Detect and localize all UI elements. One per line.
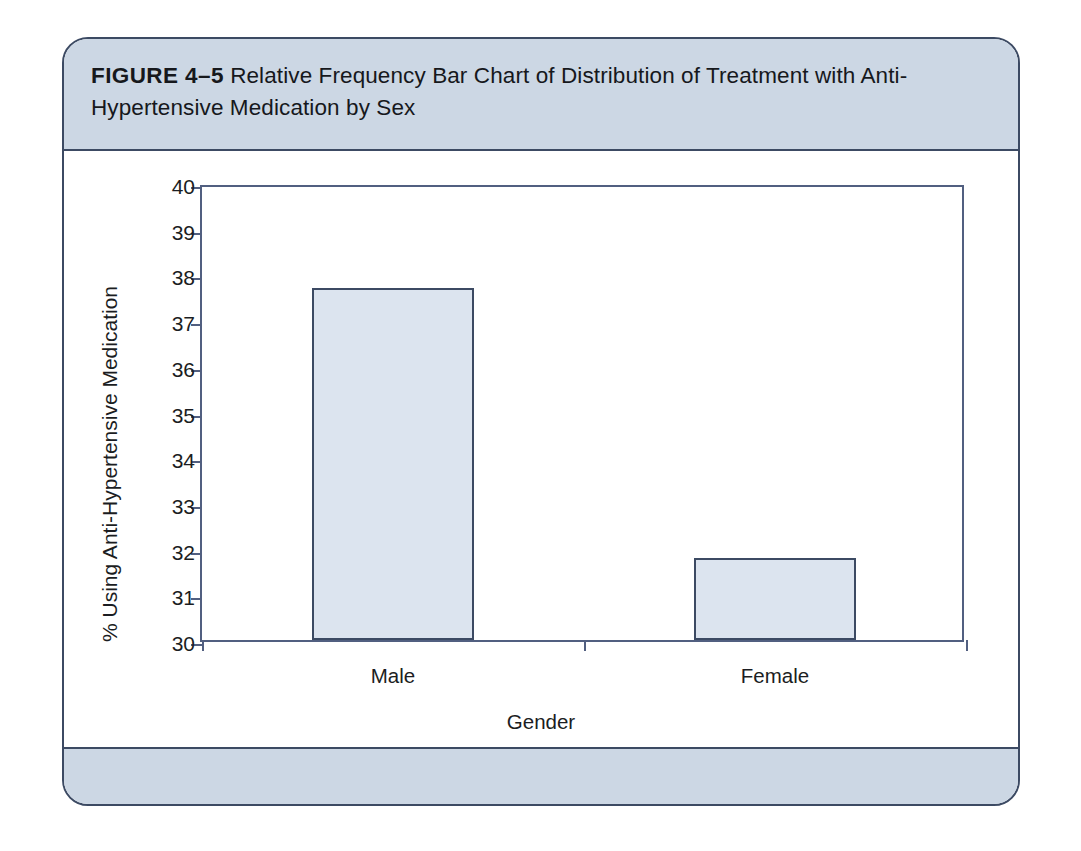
figure-header-band: FIGURE 4–5 Relative Frequency Bar Chart … [64, 39, 1018, 151]
bar-female [694, 558, 856, 640]
y-tick-label: 31 [172, 586, 195, 610]
x-tick-mark [966, 640, 968, 651]
chart-axis-frame: 3031323334353637383940MaleFemale [200, 185, 964, 642]
y-tick-label: 32 [172, 541, 195, 565]
plot-area: 3031323334353637383940MaleFemale % Using… [64, 151, 1018, 749]
x-axis-title: Gender [64, 710, 1018, 734]
figure-card: FIGURE 4–5 Relative Frequency Bar Chart … [62, 37, 1020, 806]
x-category-label-female: Female [741, 664, 809, 688]
y-tick-label: 37 [172, 312, 195, 336]
y-axis-title: % Using Anti-Hypertensive Medication [98, 286, 122, 642]
bar-male [312, 288, 474, 640]
y-tick-label: 36 [172, 358, 195, 382]
y-tick-label: 40 [172, 175, 195, 199]
figure-footer-band [64, 747, 1018, 804]
y-tick-label: 34 [172, 449, 195, 473]
y-tick-label: 38 [172, 266, 195, 290]
y-tick-label: 30 [172, 632, 195, 656]
y-tick-label: 33 [172, 495, 195, 519]
y-tick-label: 35 [172, 404, 195, 428]
figure-number-label: FIGURE 4–5 [91, 63, 224, 88]
x-category-label-male: Male [371, 664, 415, 688]
y-tick-label: 39 [172, 221, 195, 245]
x-tick-mark [584, 640, 586, 651]
x-tick-mark [202, 640, 204, 651]
figure-caption: FIGURE 4–5 Relative Frequency Bar Chart … [91, 60, 992, 124]
